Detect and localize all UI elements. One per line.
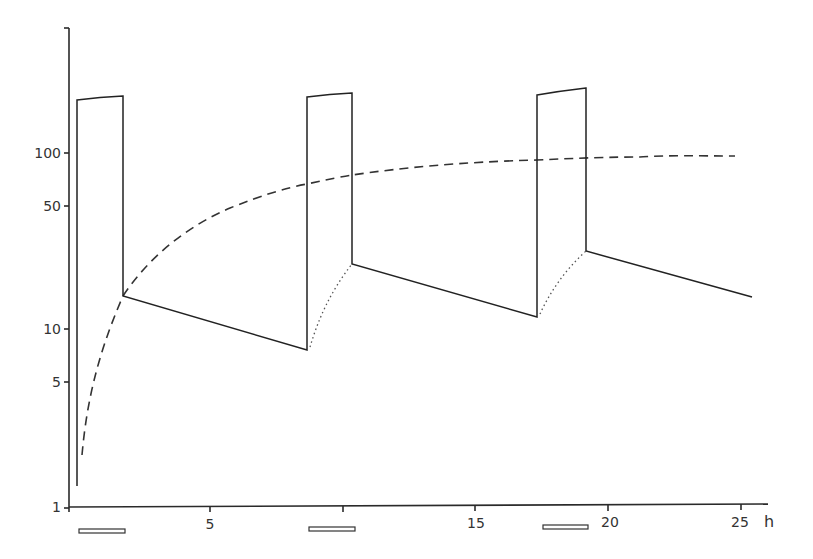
infusion-bar-2 <box>309 527 355 531</box>
y-axis <box>64 28 69 512</box>
x-tick-labels: 5 15 20 25 h <box>206 512 775 532</box>
x-tick-20: 20 <box>601 514 619 530</box>
infusion-bars <box>79 525 588 533</box>
y-tick-5: 5 <box>52 374 61 390</box>
x-tick-25: 25 <box>731 514 749 530</box>
y-tick-10: 10 <box>43 321 61 337</box>
solid-curve <box>77 88 752 486</box>
x-axis <box>69 504 768 512</box>
dashed-curve <box>82 156 735 455</box>
y-tick-1: 1 <box>52 499 61 515</box>
infusion-bar-3 <box>543 525 588 529</box>
infusion-bar-1 <box>79 529 125 533</box>
x-tick-15: 15 <box>467 515 485 531</box>
x-tick-5: 5 <box>206 516 215 532</box>
y-tick-100: 100 <box>34 145 61 161</box>
pharmacokinetic-chart: 100 50 10 5 1 5 15 20 25 h <box>0 0 813 559</box>
dotted-rise-1 <box>310 264 352 347</box>
y-tick-50: 50 <box>43 198 61 214</box>
y-tick-labels: 100 50 10 5 1 <box>34 145 61 515</box>
dotted-rise-2 <box>540 251 586 314</box>
x-axis-unit: h <box>764 512 774 531</box>
